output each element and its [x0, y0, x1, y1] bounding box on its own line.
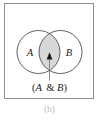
intersection-label: (A & B) [32, 82, 67, 94]
intersection-label-set-a: A [35, 82, 43, 93]
subfigure-label: (b) [0, 104, 99, 115]
intersection-label-close-paren: ) [63, 82, 67, 94]
set-a-label: A [26, 47, 34, 58]
intersection-label-operator: & [44, 82, 57, 93]
set-b-label: B [66, 47, 73, 58]
figure-container: A B (A & B) (b) [0, 0, 99, 120]
venn-diagram-graphic: A B (A & B) [0, 0, 99, 100]
